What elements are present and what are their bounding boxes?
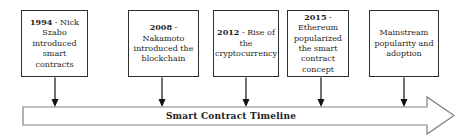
event-box-label: Mainstream popularity and adoption	[373, 27, 435, 59]
event-box-2012: 2012 - Rise of the cryptocurrency	[213, 10, 279, 77]
smart-contract-timeline-diagram: 1994 - Nick Szabo introduced smart contr…	[0, 0, 459, 137]
event-box-label: 1994 - Nick Szabo introduced smart contr…	[25, 17, 84, 70]
connector-arrowhead-icon	[52, 99, 59, 107]
connector-arrowhead-icon	[318, 99, 325, 107]
event-box-label: 2015 - Ethereum popularized the smart co…	[291, 12, 345, 75]
connector-arrowhead-icon	[401, 99, 408, 107]
timeline-title: Smart Contract Timeline	[23, 107, 439, 125]
event-box-label: 2012 - Rise of the cryptocurrency	[215, 27, 277, 59]
connector-arrowhead-icon	[159, 99, 166, 107]
connector-arrowhead-icon	[243, 99, 250, 107]
event-box-label: 2008 - Nakamoto introduced the blockchai…	[132, 22, 195, 65]
event-box-2015: 2015 - Ethereum popularized the smart co…	[287, 10, 349, 77]
event-box-1994: 1994 - Nick Szabo introduced smart contr…	[21, 10, 88, 77]
event-box-2008: 2008 - Nakamoto introduced the blockchai…	[128, 10, 199, 77]
event-box-mainstream: Mainstream popularity and adoption	[369, 10, 439, 77]
